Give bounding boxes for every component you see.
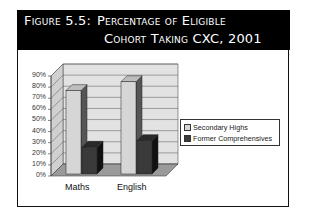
- y-tick-label: 30%: [24, 138, 46, 145]
- y-tick-label: 20%: [24, 149, 46, 156]
- x-category-label: Maths: [65, 182, 90, 192]
- legend-item-former-comprehensives: Former Comprehensives: [184, 134, 272, 144]
- chart-legend: Secondary Highs Former Comprehensives: [180, 119, 280, 146]
- y-tick-label: 80%: [24, 82, 46, 89]
- legend-swatch-secondary-highs: [184, 124, 191, 131]
- y-tick-marks: [48, 76, 51, 176]
- y-tick-label: 0%: [24, 171, 46, 178]
- bar-maths-former-comprehensives: [82, 141, 103, 174]
- y-tick-label: 70%: [24, 93, 46, 100]
- legend-label: Secondary Highs: [193, 123, 248, 132]
- legend-label: Former Comprehensives: [193, 134, 272, 143]
- y-tick-label: 60%: [24, 104, 46, 111]
- legend-swatch-former-comprehensives: [184, 135, 191, 142]
- bar-english-former-comprehensives: [137, 135, 158, 174]
- legend-item-secondary-highs: Secondary Highs: [184, 123, 248, 133]
- y-tick-label: 10%: [24, 160, 46, 167]
- y-tick-label: 50%: [24, 115, 46, 122]
- y-tick-label: 90%: [24, 71, 46, 78]
- x-category-label: English: [117, 182, 147, 192]
- y-tick-label: 40%: [24, 127, 46, 134]
